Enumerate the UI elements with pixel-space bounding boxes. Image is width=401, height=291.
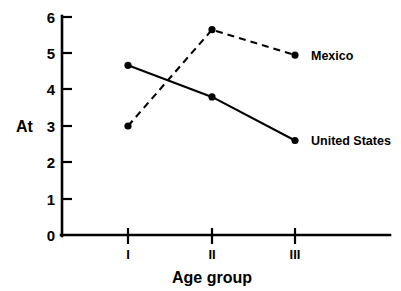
line-chart: 6 5 4 3 2 1 0 At I II III Age group Mexi… — [0, 0, 401, 291]
y-tick-label: 2 — [47, 154, 55, 171]
x-tick-label: II — [208, 247, 215, 262]
series-markers-mexico — [124, 26, 298, 130]
data-point — [208, 26, 215, 33]
x-tick-label: III — [290, 247, 301, 262]
y-axis-title: At — [16, 118, 34, 135]
y-axis-tick-labels: 6 5 4 3 2 1 0 — [47, 9, 56, 244]
series-line-united-states — [128, 65, 295, 140]
data-point — [291, 137, 298, 144]
series-label-united-states: United States — [311, 134, 391, 148]
y-tick-label: 6 — [47, 9, 55, 26]
y-tick-label: 4 — [47, 81, 56, 98]
data-point — [124, 62, 131, 69]
y-axis-ticks — [62, 17, 72, 199]
y-tick-label: 3 — [47, 118, 55, 135]
series-label-mexico: Mexico — [311, 49, 354, 63]
data-point — [208, 93, 215, 100]
y-tick-label: 1 — [47, 191, 55, 208]
chart-canvas: 6 5 4 3 2 1 0 At I II III Age group Mexi… — [0, 0, 401, 291]
y-tick-label: 0 — [47, 227, 55, 244]
x-axis-tick-labels: I II III — [126, 247, 300, 262]
x-axis-title: Age group — [172, 269, 252, 286]
data-point — [124, 122, 131, 129]
series-line-mexico — [128, 30, 295, 126]
y-tick-label: 5 — [47, 45, 55, 62]
x-tick-label: I — [126, 247, 130, 262]
data-point — [291, 52, 298, 59]
